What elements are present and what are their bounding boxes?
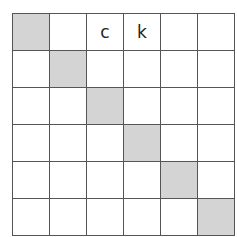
grid-cell-r0-c2: c (87, 14, 124, 51)
grid-cell-r3-c2 (87, 125, 124, 162)
grid-cell-r3-c1 (50, 125, 87, 162)
grid-cell-r5-c1 (50, 199, 87, 236)
grid-cell-r2-c3 (124, 88, 161, 125)
grid-cell-r3-c0 (13, 125, 50, 162)
grid-cell-r3-c3 (124, 125, 161, 162)
grid-cell-r1-c0 (13, 51, 50, 88)
grid-cell-r1-c5 (198, 51, 235, 88)
grid-cell-r5-c2 (87, 199, 124, 236)
grid-cell-r3-c5 (198, 125, 235, 162)
grid-cell-r2-c4 (161, 88, 198, 125)
grid-cell-r4-c3 (124, 162, 161, 199)
grid-cell-r4-c5 (198, 162, 235, 199)
grid-cell-r5-c4 (161, 199, 198, 236)
grid-cell-r0-c1 (50, 14, 87, 51)
grid-cell-r0-c3: k (124, 14, 161, 51)
grid-cell-r1-c4 (161, 51, 198, 88)
grid-cell-r3-c4 (161, 125, 198, 162)
grid-cell-r4-c0 (13, 162, 50, 199)
grid-cell-r2-c0 (13, 88, 50, 125)
grid-cell-r4-c2 (87, 162, 124, 199)
grid-cell-r4-c4 (161, 162, 198, 199)
grid-cell-r0-c0 (13, 14, 50, 51)
grid-cell-r5-c5 (198, 199, 235, 236)
grid-cell-r1-c2 (87, 51, 124, 88)
grid-cell-r2-c1 (50, 88, 87, 125)
grid-cell-r0-c4 (161, 14, 198, 51)
grid-cell-r1-c1 (50, 51, 87, 88)
grid-cell-r1-c3 (124, 51, 161, 88)
grid-cell-r0-c5 (198, 14, 235, 51)
grid-cell-r2-c5 (198, 88, 235, 125)
grid-cell-r5-c3 (124, 199, 161, 236)
grid-cell-r2-c2 (87, 88, 124, 125)
grid-cell-r4-c1 (50, 162, 87, 199)
grid-cell-r5-c0 (13, 199, 50, 236)
letter-grid: ck (12, 13, 235, 236)
